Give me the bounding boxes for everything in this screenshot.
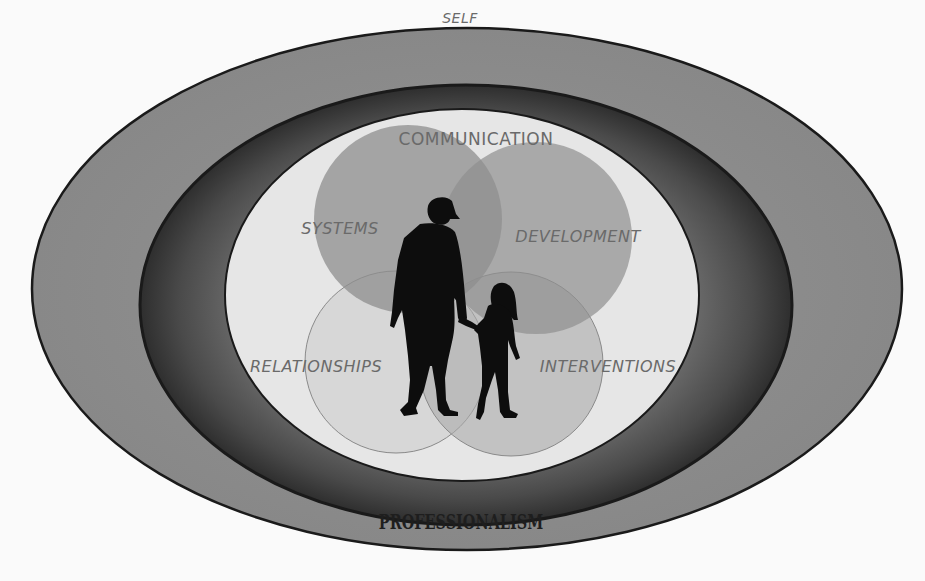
professional-practice-diagram: SELF COMMUNICATION SYSTEMS DEVELOPMENT R…: [0, 0, 925, 581]
relationships-label: RELATIONSHIPS: [250, 357, 382, 376]
professionalism-label: PROFESSIONALISM: [379, 511, 543, 534]
self-label: SELF: [442, 10, 478, 26]
development-label: DEVELOPMENT: [515, 227, 641, 246]
communication-label: COMMUNICATION: [399, 129, 554, 149]
systems-label: SYSTEMS: [301, 219, 378, 238]
diagram-canvas: SELF COMMUNICATION SYSTEMS DEVELOPMENT R…: [0, 0, 925, 581]
venn-group: [305, 125, 632, 456]
interventions-label: INTERVENTIONS: [540, 357, 676, 376]
